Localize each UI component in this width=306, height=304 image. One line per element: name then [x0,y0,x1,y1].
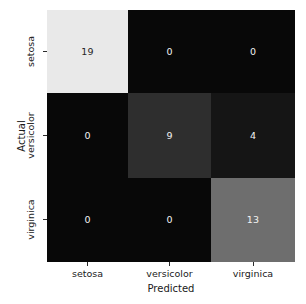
y-axis-title: Actual [14,10,28,262]
heatmap-cell-value: 0 [166,215,172,225]
heatmap-plot-area: 19 0 0 0 9 4 0 0 13 [47,10,295,262]
x-axis-tick-label-virginica: virginica [211,266,295,280]
x-axis-tick-label-versicolor: versicolor [128,266,211,280]
y-axis-tick-mark-setosa [43,51,47,52]
heatmap-cell-value: 0 [84,215,90,225]
heatmap-cell-versicolor-versicolor[interactable]: 9 [128,93,211,178]
heatmap-cell-value: 0 [250,47,256,57]
x-axis-tick-label-setosa: setosa [47,266,128,280]
heatmap-cell-value: 19 [81,47,94,57]
heatmap-cell-virginica-virginica[interactable]: 13 [211,178,295,262]
heatmap-cell-setosa-virginica[interactable]: 0 [211,10,295,93]
y-axis-tick-mark-virginica [43,219,47,220]
heatmap-cell-setosa-setosa[interactable]: 19 [47,10,128,93]
x-axis-title: Predicted [47,281,295,295]
y-axis-tick-mark-versicolor [43,135,47,136]
heatmap-cell-value: 4 [250,131,256,141]
heatmap-cell-value: 0 [166,47,172,57]
heatmap-cell-versicolor-setosa[interactable]: 0 [47,93,128,178]
heatmap-cell-virginica-versicolor[interactable]: 0 [128,178,211,262]
heatmap-cell-value: 0 [84,131,90,141]
heatmap-cell-value: 9 [166,131,172,141]
heatmap-cell-value: 13 [247,215,260,225]
heatmap-cell-virginica-setosa[interactable]: 0 [47,178,128,262]
heatmap-cell-versicolor-virginica[interactable]: 4 [211,93,295,178]
confusion-matrix-figure: 19 0 0 0 9 4 0 0 13 setosa vers [0,0,306,304]
heatmap-cell-setosa-versicolor[interactable]: 0 [128,10,211,93]
